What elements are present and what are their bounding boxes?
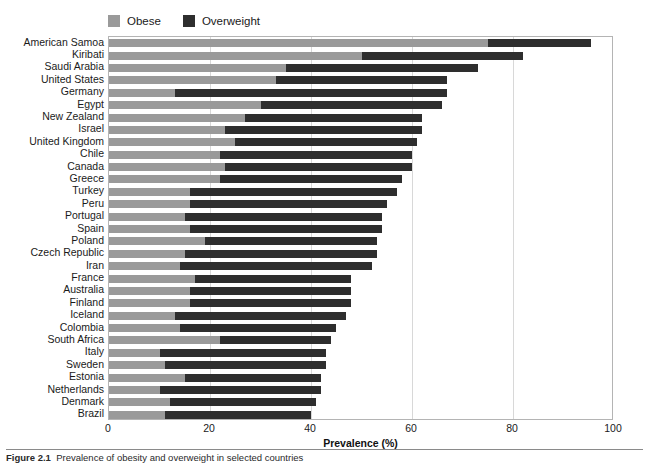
bar-row[interactable] [109, 114, 422, 122]
bar-segment-overweight[interactable] [160, 386, 322, 394]
bar-row[interactable] [109, 64, 478, 72]
bar-segment-overweight[interactable] [185, 374, 321, 382]
bar-segment-obese[interactable] [109, 312, 175, 320]
bar-segment-overweight[interactable] [195, 275, 352, 283]
bar-row[interactable] [109, 287, 351, 295]
bar-row[interactable] [109, 411, 311, 419]
bar-segment-overweight[interactable] [220, 336, 331, 344]
bar-segment-obese[interactable] [109, 138, 235, 146]
y-axis-label: Canada [0, 161, 104, 172]
legend-item-overweight[interactable]: Overweight [183, 15, 260, 27]
bar-segment-overweight[interactable] [261, 101, 443, 109]
bar-segment-overweight[interactable] [190, 299, 352, 307]
bar-row[interactable] [109, 52, 523, 60]
bar-segment-overweight[interactable] [175, 89, 448, 97]
bar-segment-overweight[interactable] [220, 175, 402, 183]
bar-segment-overweight[interactable] [220, 151, 412, 159]
bar-segment-obese[interactable] [109, 64, 286, 72]
bar-segment-obese[interactable] [109, 275, 195, 283]
bar-row[interactable] [109, 361, 326, 369]
bar-segment-overweight[interactable] [190, 188, 397, 196]
bar-segment-obese[interactable] [109, 237, 205, 245]
bar-segment-overweight[interactable] [205, 237, 377, 245]
bar-segment-obese[interactable] [109, 89, 175, 97]
bar-row[interactable] [109, 374, 321, 382]
bar-segment-overweight[interactable] [170, 398, 316, 406]
bar-segment-obese[interactable] [109, 250, 185, 258]
bar-segment-obese[interactable] [109, 175, 220, 183]
bar-segment-obese[interactable] [109, 76, 276, 84]
bar-segment-overweight[interactable] [190, 225, 382, 233]
bar-segment-overweight[interactable] [245, 114, 422, 122]
bar-segment-obese[interactable] [109, 200, 190, 208]
bar-segment-overweight[interactable] [185, 213, 382, 221]
bar-segment-obese[interactable] [109, 398, 170, 406]
bar-row[interactable] [109, 175, 402, 183]
bar-row[interactable] [109, 89, 447, 97]
bar-row[interactable] [109, 237, 377, 245]
figure-caption: Figure 2.1 Prevalence of obesity and ove… [6, 452, 643, 463]
bar-segment-obese[interactable] [109, 324, 180, 332]
bar-row[interactable] [109, 188, 397, 196]
bar-row[interactable] [109, 386, 321, 394]
bar-row[interactable] [109, 138, 417, 146]
bar-segment-obese[interactable] [109, 299, 190, 307]
bar-row[interactable] [109, 336, 331, 344]
bar-segment-overweight[interactable] [225, 163, 412, 171]
bar-segment-obese[interactable] [109, 262, 180, 270]
bar-row[interactable] [109, 126, 422, 134]
bar-segment-obese[interactable] [109, 374, 185, 382]
bar-row[interactable] [109, 324, 336, 332]
bar-segment-obese[interactable] [109, 411, 165, 419]
bar-segment-overweight[interactable] [180, 324, 337, 332]
bar-segment-obese[interactable] [109, 336, 220, 344]
bar-segment-overweight[interactable] [225, 126, 422, 134]
bar-row[interactable] [109, 398, 316, 406]
bar-segment-overweight[interactable] [165, 361, 327, 369]
bar-row[interactable] [109, 225, 382, 233]
bar-row[interactable] [109, 39, 591, 47]
y-axis-label: New Zealand [0, 111, 104, 122]
bar-segment-obese[interactable] [109, 386, 160, 394]
bar-segment-obese[interactable] [109, 287, 190, 295]
bar-row[interactable] [109, 250, 377, 258]
bar-segment-obese[interactable] [109, 349, 160, 357]
bar-row[interactable] [109, 213, 382, 221]
bar-row[interactable] [109, 151, 412, 159]
bar-segment-overweight[interactable] [190, 287, 352, 295]
bar-row[interactable] [109, 76, 447, 84]
bar-segment-obese[interactable] [109, 163, 225, 171]
bar-segment-overweight[interactable] [165, 411, 311, 419]
bar-row[interactable] [109, 275, 351, 283]
bar-row[interactable] [109, 349, 326, 357]
bar-segment-obese[interactable] [109, 361, 165, 369]
legend-item-obese[interactable]: Obese [108, 15, 161, 27]
bar-segment-obese[interactable] [109, 114, 245, 122]
bar-segment-overweight[interactable] [175, 312, 347, 320]
bar-segment-overweight[interactable] [185, 250, 377, 258]
bar-segment-overweight[interactable] [362, 52, 524, 60]
bar-row[interactable] [109, 312, 346, 320]
bar-row[interactable] [109, 200, 387, 208]
bar-segment-obese[interactable] [109, 52, 362, 60]
bar-segment-obese[interactable] [109, 213, 185, 221]
bar-row[interactable] [109, 262, 372, 270]
bar-row[interactable] [109, 299, 351, 307]
bar-segment-overweight[interactable] [190, 200, 387, 208]
bar-row[interactable] [109, 101, 442, 109]
y-axis-label: Peru [0, 198, 104, 209]
bar-segment-overweight[interactable] [488, 39, 592, 47]
bar-segment-obese[interactable] [109, 225, 190, 233]
bar-row[interactable] [109, 163, 412, 171]
bar-segment-overweight[interactable] [235, 138, 417, 146]
bar-segment-overweight[interactable] [286, 64, 478, 72]
bar-segment-overweight[interactable] [276, 76, 448, 84]
bar-segment-obese[interactable] [109, 126, 225, 134]
bar-segment-obese[interactable] [109, 101, 261, 109]
bar-segment-obese[interactable] [109, 39, 488, 47]
bar-segment-obese[interactable] [109, 151, 220, 159]
bar-segment-overweight[interactable] [180, 262, 372, 270]
y-axis-label: Netherlands [0, 384, 104, 395]
bar-segment-obese[interactable] [109, 188, 190, 196]
bar-segment-overweight[interactable] [160, 349, 327, 357]
